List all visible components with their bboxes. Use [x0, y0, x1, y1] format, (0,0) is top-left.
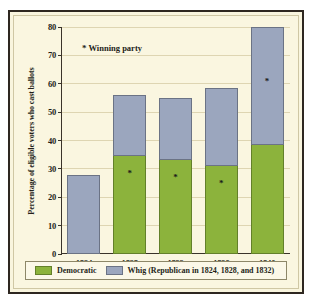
legend-label-democratic: Democratic	[57, 266, 97, 275]
bar-1836[interactable]: *	[205, 88, 238, 254]
y-tick-mark	[58, 197, 62, 198]
y-tick-label: 80	[48, 22, 56, 32]
y-tick-label: 20	[48, 192, 56, 202]
bar-segment-democratic-1840[interactable]	[251, 145, 284, 254]
bar-segment-democratic-1832[interactable]: *	[159, 160, 192, 254]
y-tick-mark	[58, 27, 62, 28]
y-tick-label: 0	[52, 249, 56, 259]
bar-segment-democratic-1828[interactable]: *	[113, 156, 146, 254]
plot-frame: 01020304050607080 1824*1828*1832*1836*18…	[61, 27, 290, 254]
y-tick-label: 40	[48, 136, 56, 146]
y-tick-label: 50	[48, 107, 56, 117]
legend-item-whig: Whig (Republican in 1824, 1828, and 1832…	[106, 266, 275, 275]
y-tick-mark	[58, 55, 62, 56]
legend-label-whig: Whig (Republican in 1824, 1828, and 1832…	[128, 266, 275, 275]
chart-legend: Democratic Whig (Republican in 1824, 182…	[25, 261, 287, 280]
legend-item-democratic: Democratic	[35, 266, 97, 275]
bar-1840[interactable]: *	[251, 27, 284, 254]
y-tick-mark	[58, 168, 62, 169]
y-tick-label: 60	[48, 79, 56, 89]
y-tick-mark	[58, 112, 62, 113]
bar-segment-whig-1828[interactable]	[113, 95, 146, 156]
y-tick-mark	[58, 254, 62, 255]
bar-segment-whig-1840[interactable]: *	[251, 27, 284, 145]
y-tick-mark	[58, 83, 62, 84]
bar-1824[interactable]	[67, 175, 100, 254]
winner-asterisk-icon-1828: *	[127, 169, 132, 178]
y-tick-mark	[58, 140, 62, 141]
bar-1832[interactable]: *	[159, 98, 192, 254]
legend-swatch-whig	[106, 266, 123, 275]
y-tick-label: 10	[48, 221, 56, 231]
bar-segment-whig-1824[interactable]	[67, 175, 100, 254]
bar-segment-whig-1836[interactable]	[205, 88, 238, 166]
bar-1828[interactable]: *	[113, 95, 146, 254]
legend-swatch-democratic	[35, 266, 52, 275]
y-axis-title: Percentage of eligible voters who cast b…	[25, 34, 37, 248]
y-tick-label: 30	[48, 164, 56, 174]
bar-segment-democratic-1836[interactable]: *	[205, 166, 238, 254]
winner-asterisk-icon-1836: *	[219, 179, 224, 188]
y-tick-mark	[58, 225, 62, 226]
y-tick-label: 70	[48, 50, 56, 60]
winner-asterisk-icon-1840: *	[265, 77, 270, 86]
winner-asterisk-icon-1832: *	[173, 173, 178, 182]
figure-frame: Percentage of eligible voters who cast b…	[8, 10, 304, 294]
bar-segment-whig-1832[interactable]	[159, 98, 192, 160]
figure-inner-border: Percentage of eligible voters who cast b…	[13, 15, 299, 289]
